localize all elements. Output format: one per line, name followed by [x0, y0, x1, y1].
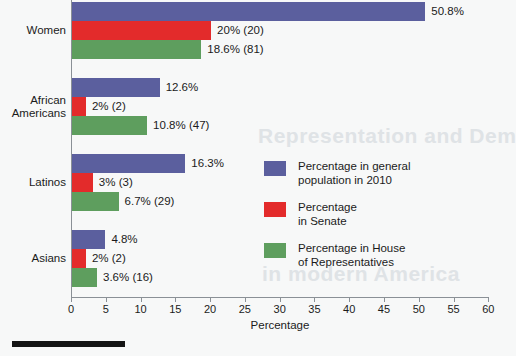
bar — [72, 268, 97, 287]
page-rule — [12, 341, 125, 347]
x-tick-label: 40 — [343, 303, 355, 315]
chart-legend: Percentage in general population in 2010… — [264, 160, 411, 283]
x-tick-label: 20 — [204, 303, 216, 315]
x-tick-label: 0 — [68, 303, 74, 315]
bar — [72, 192, 119, 211]
bar — [72, 2, 425, 21]
x-tick — [314, 297, 315, 302]
legend-item: Percentage in general population in 2010 — [264, 160, 411, 187]
bar-value-label: 4.8% — [111, 230, 137, 249]
bar — [72, 116, 147, 135]
legend-color-swatch — [264, 202, 286, 217]
bar-value-label: 50.8% — [431, 2, 464, 21]
bar-value-label: 12.6% — [166, 78, 199, 97]
x-tick-label: 15 — [169, 303, 181, 315]
x-axis-title: Percentage — [71, 319, 489, 331]
legend-item: Percentage in House of Representatives — [264, 242, 411, 269]
bar-value-label: 20% (20) — [217, 21, 264, 40]
legend-label: Percentage in general population in 2010 — [298, 160, 411, 187]
x-tick — [210, 297, 211, 302]
bar — [72, 173, 93, 192]
category-label: Asians — [31, 252, 66, 265]
legend-label: Percentage in House of Representatives — [298, 242, 405, 269]
bar-value-label: 18.6% (81) — [207, 40, 263, 59]
bar-value-label: 16.3% — [191, 154, 224, 173]
bar — [72, 154, 185, 173]
x-tick — [141, 297, 142, 302]
bar-value-label: 2% (2) — [92, 249, 126, 268]
x-tick-label: 60 — [482, 303, 494, 315]
x-tick-label: 45 — [378, 303, 390, 315]
x-tick — [488, 297, 489, 302]
x-tick — [245, 297, 246, 302]
x-tick-label: 50 — [413, 303, 425, 315]
x-tick-label: 30 — [274, 303, 286, 315]
bar — [72, 97, 86, 116]
bar-value-label: 3.6% (16) — [103, 268, 153, 287]
x-tick — [454, 297, 455, 302]
bar-value-label: 2% (2) — [92, 97, 126, 116]
bar — [72, 78, 160, 97]
bar — [72, 230, 105, 249]
category-label: African Americans — [12, 94, 66, 120]
legend-item: Percentage in Senate — [264, 201, 411, 228]
bar — [72, 40, 201, 59]
bar-value-label: 6.7% (29) — [125, 192, 175, 211]
x-tick — [106, 297, 107, 302]
bar-value-label: 3% (3) — [99, 173, 133, 192]
category-label: Latinos — [29, 176, 66, 189]
x-tick-label: 25 — [239, 303, 251, 315]
x-tick-label: 5 — [103, 303, 109, 315]
x-tick — [349, 297, 350, 302]
x-tick — [419, 297, 420, 302]
bar — [72, 21, 211, 40]
x-tick-label: 55 — [447, 303, 459, 315]
x-tick-label: 35 — [308, 303, 320, 315]
category-label: Women — [27, 24, 66, 37]
x-tick — [175, 297, 176, 302]
x-tick — [384, 297, 385, 302]
legend-color-swatch — [264, 243, 286, 258]
x-tick — [280, 297, 281, 302]
bar — [72, 249, 86, 268]
x-tick-label: 10 — [134, 303, 146, 315]
bar-value-label: 10.8% (47) — [153, 116, 209, 135]
legend-label: Percentage in Senate — [298, 201, 357, 228]
x-tick — [71, 297, 72, 302]
legend-color-swatch — [264, 161, 286, 176]
